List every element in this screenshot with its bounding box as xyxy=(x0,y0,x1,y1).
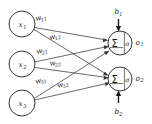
bias-subscript-b1: 1 xyxy=(119,11,122,17)
summation-symbol-o2: Σ xyxy=(112,74,118,85)
weight-label-w11: w 11 xyxy=(35,12,48,23)
network-canvas: x 1 x 2 x 3 w 11 w 12 w 21 w xyxy=(0,0,152,124)
weight-subscript-w12: 12 xyxy=(54,34,62,42)
output-subscript-o2: 2 xyxy=(140,77,144,83)
input-subscript-x1: 1 xyxy=(23,24,26,30)
input-node-x3[interactable]: x 3 xyxy=(9,90,35,116)
weight-subscript-w32: 32 xyxy=(62,82,70,90)
output-subscript-o1: 1 xyxy=(141,41,144,47)
bias-subscript-b2: 2 xyxy=(118,111,122,117)
input-node-x2[interactable]: x 2 xyxy=(9,51,35,77)
input-node-x1[interactable]: x 1 xyxy=(9,11,35,37)
bias-arrow-b2 xyxy=(116,91,121,104)
weight-label-w21: w 21 xyxy=(36,45,49,56)
edge-group xyxy=(34,28,110,101)
bias-label-b1: b 1 xyxy=(115,7,123,17)
input-subscript-x3: 3 xyxy=(23,103,26,109)
output-label-o1: o 1 xyxy=(136,38,144,48)
weight-subscript-w21: 21 xyxy=(40,48,48,56)
output-label-o2: o 2 xyxy=(136,74,144,84)
weight-subscript-w31: 31 xyxy=(40,78,48,86)
weight-subscript-w22: 22 xyxy=(53,61,61,68)
output-node-o1[interactable]: Σ σ xyxy=(108,31,132,55)
weight-label-w22: w 22 xyxy=(49,58,62,69)
summation-symbol-o1: Σ xyxy=(112,38,118,49)
weight-label-w12: w 12 xyxy=(48,31,61,43)
bias-label-b2: b 2 xyxy=(115,107,123,117)
weight-label-w31: w 31 xyxy=(34,75,47,87)
neural-network-diagram: x 1 x 2 x 3 w 11 w 12 w 21 w xyxy=(0,0,152,124)
output-node-o2[interactable]: Σ σ xyxy=(108,67,132,91)
input-subscript-x2: 2 xyxy=(22,64,26,70)
weight-subscript-w11: 11 xyxy=(40,15,48,22)
edge-x1-o1 xyxy=(35,28,109,43)
bias-arrow-b1 xyxy=(116,19,121,32)
